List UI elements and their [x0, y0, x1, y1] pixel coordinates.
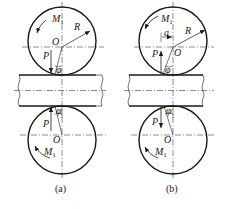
radius-label-top-a: R	[73, 21, 80, 32]
angle-label-bottom-b: φ	[166, 105, 172, 116]
center-label-bottom-b: O	[164, 134, 171, 145]
panel-b: M1 a R P O φ φ P O M1 (b)	[124, 2, 216, 195]
rolling-diagram: M1 R O P φ φ P O M1 (a)	[0, 0, 230, 209]
force-label-bottom-a: P	[42, 118, 49, 129]
radius-label-top-b: R	[184, 25, 191, 36]
rolled-strip-b	[124, 75, 214, 106]
center-label-top-a: O	[52, 36, 59, 47]
caption-a: (a)	[55, 183, 66, 195]
center-label-top-b: O	[174, 47, 181, 58]
rolled-strip-a	[14, 75, 106, 106]
moment-label-top-b: M1	[160, 13, 173, 26]
bottom-roll-b	[131, 106, 216, 180]
angle-label-top-b: φ	[165, 64, 171, 75]
angle-label-bottom-a: φ	[56, 105, 62, 116]
caption-b: (b)	[166, 183, 178, 195]
bottom-roll-a	[20, 106, 106, 180]
force-label-bottom-b: P	[151, 116, 158, 127]
angle-label-top-a: φ	[56, 64, 62, 75]
force-label-top-a: P	[42, 50, 49, 61]
panel-a: M1 R O P φ φ P O M1 (a)	[14, 2, 106, 195]
center-label-bottom-a: O	[53, 134, 60, 145]
arm-label-top-b: a	[164, 27, 169, 38]
force-label-top-b: P	[151, 48, 158, 59]
moment-label-top-a: M1	[51, 13, 64, 26]
moment-label-bottom-a: M1	[43, 146, 56, 159]
